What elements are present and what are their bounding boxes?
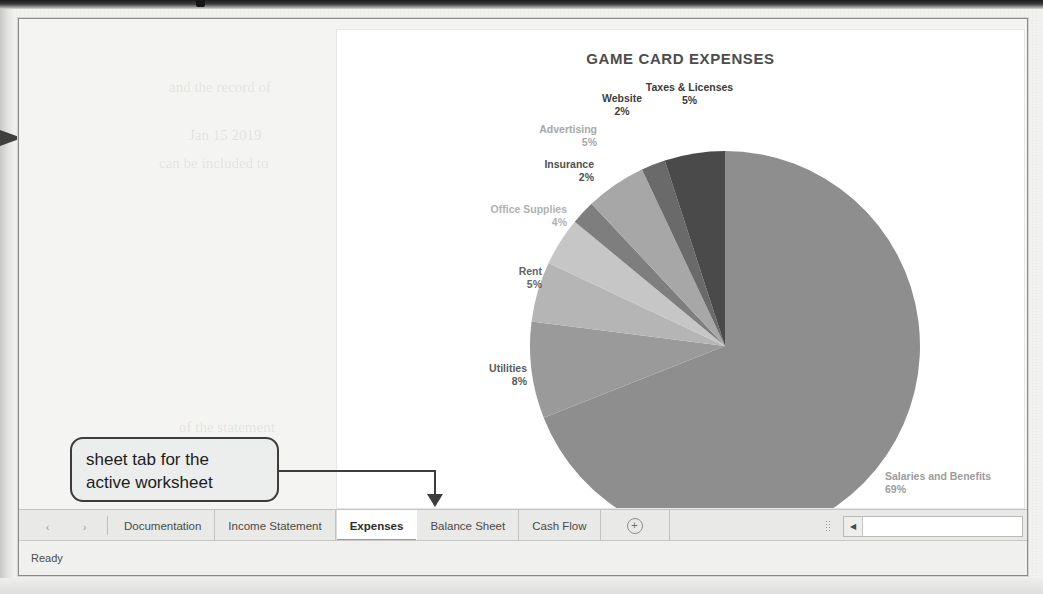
annotation-callout: sheet tab for the active worksheet xyxy=(70,437,279,502)
scan-bottom-shadow xyxy=(0,578,1043,594)
pie-data-label-percent: 2% xyxy=(519,171,594,184)
scan-gutter-strip xyxy=(0,0,1043,9)
annotation-callout-text: sheet tab for the active worksheet xyxy=(86,448,213,495)
callout-leader-horizontal xyxy=(279,470,436,472)
status-text: Ready xyxy=(31,552,63,564)
chevron-right-icon[interactable]: › xyxy=(83,522,87,533)
tab-nav-divider xyxy=(107,516,108,535)
tab-split-grip[interactable] xyxy=(825,520,830,533)
scan-gutter-nub xyxy=(196,0,205,7)
bleed-text: can be included to xyxy=(159,155,269,172)
pie-data-label-category: Insurance xyxy=(544,158,594,170)
scroll-track[interactable] xyxy=(863,517,1022,536)
chevron-left-icon[interactable]: ‹ xyxy=(46,522,50,533)
bleed-text: and the record of xyxy=(169,79,271,96)
pie-data-label-category: Utilities xyxy=(489,362,527,374)
sheet-tab-balance-sheet[interactable]: Balance Sheet xyxy=(417,510,519,541)
sheet-tab-list[interactable]: DocumentationIncome StatementExpensesBal… xyxy=(111,510,670,541)
scanned-page: and the record of Jan 15 2019 can be inc… xyxy=(0,0,1043,594)
sheet-tab-income-statement[interactable]: Income Statement xyxy=(215,510,335,541)
pie-chart-object[interactable]: GAME CARD EXPENSES Salaries and Benefits… xyxy=(336,29,1025,509)
pie-data-label: Insurance2% xyxy=(519,158,594,185)
status-bar: Ready xyxy=(19,540,1027,575)
pie-data-label: Advertising5% xyxy=(517,123,597,150)
add-sheet-button[interactable]: + xyxy=(601,510,670,541)
pie-data-label-percent: 4% xyxy=(462,216,567,229)
sheet-tab-bar[interactable]: ‹ › DocumentationIncome StatementExpense… xyxy=(19,509,1027,541)
pie-data-label: Taxes & Licenses5% xyxy=(637,81,742,108)
sheet-tab-label: Expenses xyxy=(350,520,404,532)
annotation-line-1: sheet tab for the xyxy=(86,448,213,471)
pie-data-label: Office Supplies4% xyxy=(462,203,567,230)
pie-data-label-percent: 69% xyxy=(885,483,1027,496)
sheet-tab-documentation[interactable]: Documentation xyxy=(111,510,215,541)
pie-data-label-category: Advertising xyxy=(539,123,597,135)
pie-data-label-percent: 8% xyxy=(467,375,527,388)
bleed-text: Jan 15 2019 xyxy=(189,127,262,144)
worksheet-area[interactable]: and the record of Jan 15 2019 can be inc… xyxy=(19,19,1027,509)
pie-data-label-percent: 5% xyxy=(517,136,597,149)
sheet-tab-cash-flow[interactable]: Cash Flow xyxy=(519,510,600,541)
sheet-tab-label: Income Statement xyxy=(228,520,321,532)
sheet-nav-buttons[interactable]: ‹ › xyxy=(29,516,103,538)
annotation-line-2: active worksheet xyxy=(86,471,213,494)
sheet-tab-label: Cash Flow xyxy=(532,520,586,532)
pie-data-label: Utilities8% xyxy=(467,362,527,389)
plus-icon: + xyxy=(627,518,643,534)
pie-data-label-category: Salaries and Benefits xyxy=(885,470,991,482)
horizontal-scrollbar[interactable]: ◀ xyxy=(843,516,1023,537)
pie-data-label-category: Office Supplies xyxy=(491,203,567,215)
pie-data-label-category: Rent xyxy=(519,265,542,277)
pie-data-label-category: Taxes & Licenses xyxy=(646,81,733,93)
sheet-tab-label: Balance Sheet xyxy=(430,520,505,532)
sheet-tab-expenses[interactable]: Expenses xyxy=(336,510,418,541)
callout-arrowhead-icon xyxy=(427,494,443,507)
pie-chart-plot-area: Salaries and Benefits69%Utilities8%Rent5… xyxy=(337,30,1024,508)
sheet-tab-label: Documentation xyxy=(124,520,201,532)
pie-data-label-percent: 5% xyxy=(497,278,542,291)
pie-data-label: Rent5% xyxy=(497,265,542,292)
bleed-text: of the statement xyxy=(179,419,275,436)
scan-left-shadow xyxy=(0,9,14,594)
pie-data-label: Salaries and Benefits69% xyxy=(885,470,1027,497)
scroll-left-button[interactable]: ◀ xyxy=(844,517,863,536)
pie-data-label-percent: 5% xyxy=(637,94,742,107)
